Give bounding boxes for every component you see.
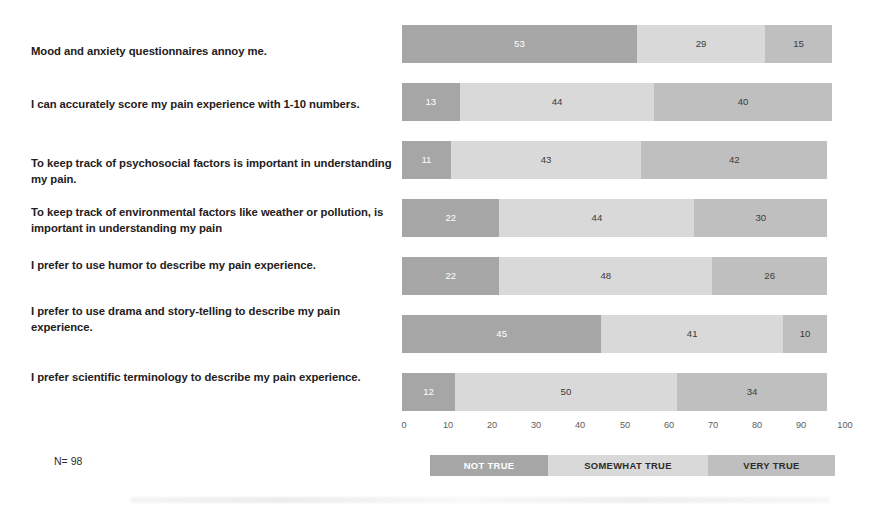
bar-segment-not-true: 22 xyxy=(402,257,499,295)
bar-segment-somewhat-true: 44 xyxy=(460,83,655,121)
bar-segment-somewhat-true: 44 xyxy=(499,199,694,237)
bar-segment-somewhat-true: 29 xyxy=(637,25,765,63)
segment-value: 11 xyxy=(421,155,431,165)
axis-tick: 20 xyxy=(487,420,497,430)
bar-segment-not-true: 22 xyxy=(402,199,499,237)
bar-segment-very-true: 15 xyxy=(765,25,831,63)
segment-value: 40 xyxy=(738,97,749,107)
segment-value: 29 xyxy=(696,39,707,49)
axis-tick: 70 xyxy=(708,420,718,430)
segment-value: 42 xyxy=(729,155,740,165)
question-label: I prefer to use humor to describe my pai… xyxy=(31,258,399,274)
segment-value: 15 xyxy=(793,39,804,49)
segment-value: 44 xyxy=(552,97,563,107)
segment-value: 26 xyxy=(764,271,775,281)
bar-segment-somewhat-true: 50 xyxy=(455,373,677,411)
segment-value: 10 xyxy=(800,329,811,339)
segment-value: 30 xyxy=(755,213,766,223)
bar-row: 45 41 10 xyxy=(402,315,845,353)
bar-segment-very-true: 30 xyxy=(694,199,827,237)
bar-segment-somewhat-true: 43 xyxy=(451,141,641,179)
bar-segment-not-true: 12 xyxy=(402,373,455,411)
bar-row: 22 48 26 xyxy=(402,257,845,295)
segment-value: 22 xyxy=(445,213,456,223)
bar-segment-not-true: 13 xyxy=(402,83,460,121)
segment-value: 12 xyxy=(423,387,434,397)
bar-segment-somewhat-true: 41 xyxy=(601,315,783,353)
question-label: To keep track of psychosocial factors is… xyxy=(31,156,399,187)
bar-segment-not-true: 45 xyxy=(402,315,601,353)
scan-artifact xyxy=(130,497,830,503)
legend-item-not-true: NOT TRUE xyxy=(430,455,548,476)
segment-value: 48 xyxy=(600,271,611,281)
legend-item-somewhat-true: SOMEWHAT TRUE xyxy=(548,455,708,476)
axis-tick: 80 xyxy=(752,420,762,430)
legend-label: NOT TRUE xyxy=(464,460,515,471)
bar-segment-very-true: 26 xyxy=(712,257,827,295)
question-label: I prefer scientific terminology to descr… xyxy=(31,370,399,386)
bar-segment-not-true: 11 xyxy=(402,141,451,179)
bar-row: 11 43 42 xyxy=(402,141,845,179)
bar-row: 12 50 34 xyxy=(402,373,845,411)
x-axis: 0 10 20 30 40 50 60 70 80 90 100 xyxy=(402,420,845,436)
chart-legend: NOT TRUE SOMEWHAT TRUE VERY TRUE xyxy=(430,455,835,476)
segment-value: 43 xyxy=(541,155,552,165)
segment-value: 45 xyxy=(496,329,507,339)
question-label: I can accurately score my pain experienc… xyxy=(31,97,399,113)
question-label: Mood and anxiety questionnaires annoy me… xyxy=(31,44,399,60)
axis-tick: 10 xyxy=(443,420,453,430)
axis-tick: 40 xyxy=(575,420,585,430)
segment-value: 44 xyxy=(592,213,603,223)
axis-tick: 60 xyxy=(664,420,674,430)
axis-tick: 30 xyxy=(531,420,541,430)
axis-tick: 50 xyxy=(620,420,630,430)
segment-value: 53 xyxy=(514,39,525,49)
bar-row: 13 44 40 xyxy=(402,83,845,121)
bar-segment-very-true: 34 xyxy=(677,373,828,411)
question-label: I prefer to use drama and story-telling … xyxy=(31,304,399,335)
bar-segment-not-true: 53 xyxy=(402,25,637,63)
segment-value: 22 xyxy=(445,271,456,281)
bar-segment-very-true: 10 xyxy=(783,315,827,353)
segment-value: 41 xyxy=(687,329,698,339)
legend-label: SOMEWHAT TRUE xyxy=(584,460,672,471)
segment-value: 13 xyxy=(425,97,436,107)
question-label: To keep track of environmental factors l… xyxy=(31,205,399,236)
question-label-column: Mood and anxiety questionnaires annoy me… xyxy=(31,0,399,420)
bar-segment-somewhat-true: 48 xyxy=(499,257,712,295)
segment-value: 50 xyxy=(561,387,572,397)
stacked-bar-chart: Mood and anxiety questionnaires annoy me… xyxy=(0,0,881,510)
segment-value: 34 xyxy=(747,387,758,397)
legend-label: VERY TRUE xyxy=(743,460,799,471)
axis-tick: 90 xyxy=(796,420,806,430)
bar-segment-very-true: 40 xyxy=(654,83,831,121)
axis-tick: 0 xyxy=(401,420,406,430)
bar-row: 22 44 30 xyxy=(402,199,845,237)
plot-area: 53 29 15 13 44 40 11 43 42 22 44 30 22 4… xyxy=(402,18,845,418)
bar-segment-very-true: 42 xyxy=(641,141,827,179)
sample-size-note: N= 98 xyxy=(54,455,82,467)
legend-item-very-true: VERY TRUE xyxy=(708,455,835,476)
bar-row: 53 29 15 xyxy=(402,25,845,63)
axis-tick: 100 xyxy=(837,420,852,430)
